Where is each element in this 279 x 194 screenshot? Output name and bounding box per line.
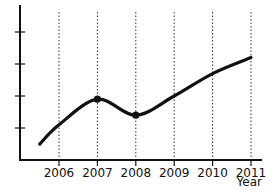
x-axis-tick-labels: 200620072008200920102011 — [44, 166, 267, 180]
x-tick-label-2008: 2008 — [121, 166, 152, 180]
vertical-gridlines — [59, 12, 251, 160]
x-tick-label-2006: 2006 — [44, 166, 75, 180]
data-line — [40, 58, 251, 144]
data-point-marker-2007 — [94, 96, 101, 103]
x-axis-title: Year — [236, 175, 262, 189]
x-tick-label-2009: 2009 — [159, 166, 190, 180]
x-tick-label-2010: 2010 — [197, 166, 228, 180]
x-tick-label-2007: 2007 — [82, 166, 113, 180]
chart-canvas: 200620072008200920102011 Year — [0, 0, 279, 194]
axes — [19, 5, 262, 160]
line-chart: 200620072008200920102011 Year — [0, 0, 279, 194]
data-point-marker-2008 — [132, 112, 139, 119]
